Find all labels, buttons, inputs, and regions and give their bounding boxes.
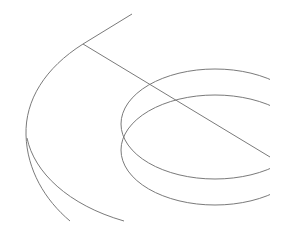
line-drawing [0, 0, 286, 236]
outer-arc-lower [27, 138, 124, 221]
diagram-canvas [0, 0, 286, 236]
upper-ellipse [121, 69, 286, 179]
diagonal-line [83, 44, 270, 157]
lower-ellipse [121, 95, 286, 205]
outer-arc [26, 44, 83, 221]
top-line [83, 14, 132, 44]
